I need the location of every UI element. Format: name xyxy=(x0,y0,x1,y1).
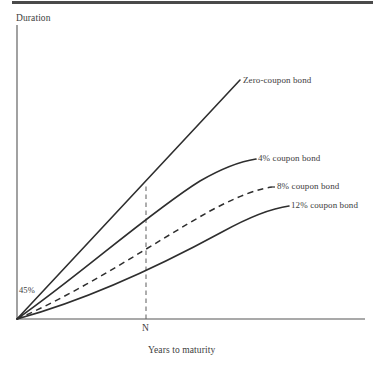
series-label-12-percent-coupon: 12% coupon bond xyxy=(291,200,358,211)
series-line-8-percent-coupon xyxy=(17,187,272,319)
series-label-zero-coupon: Zero-coupon bond xyxy=(243,75,311,86)
x-axis-tick-label-n: N xyxy=(142,323,149,334)
series-line-4-percent-coupon xyxy=(17,159,256,319)
series-label-8-percent-coupon: 8% coupon bond xyxy=(277,181,339,192)
series-line-zero-coupon xyxy=(17,80,240,319)
series-label-4-percent-coupon: 4% coupon bond xyxy=(258,153,320,164)
chart-figure: Duration 45% N Years to maturity Zero-co… xyxy=(0,0,381,367)
x-axis-title: Years to maturity xyxy=(148,345,215,356)
series-line-12-percent-coupon xyxy=(17,206,289,319)
y-axis-title: Duration xyxy=(16,13,51,24)
origin-slope-annotation: 45% xyxy=(19,285,35,296)
